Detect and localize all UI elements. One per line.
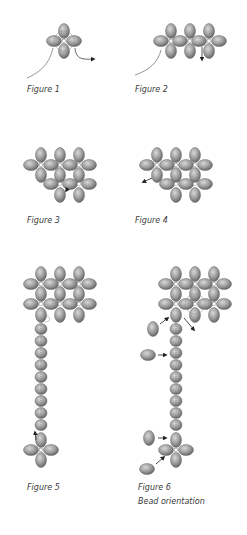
figure-1-caption: Figure 1 xyxy=(27,85,60,95)
figure-6-subcaption: Bead orientation xyxy=(138,497,205,507)
figure-2-diagram xyxy=(135,24,227,76)
figure-5-diagram xyxy=(24,267,97,468)
figure-5-caption: Figure 5 xyxy=(27,483,60,493)
figure-6-caption: Figure 6 xyxy=(138,483,171,493)
figure-2-caption: Figure 2 xyxy=(135,85,168,95)
figure-3-caption: Figure 3 xyxy=(27,216,60,226)
bead-diagram xyxy=(0,0,247,535)
figure-1-diagram xyxy=(27,24,94,79)
figure-6-diagram xyxy=(140,267,232,475)
figure-4-caption: Figure 4 xyxy=(135,216,168,226)
figure-3-diagram xyxy=(24,148,97,203)
figure-4-diagram xyxy=(140,148,213,203)
